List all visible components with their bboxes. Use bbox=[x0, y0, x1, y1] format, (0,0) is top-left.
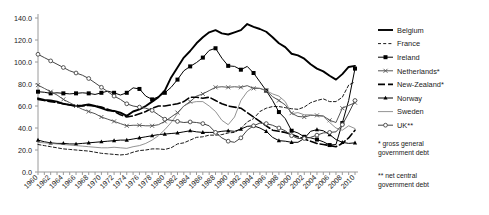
series-marker-uk bbox=[163, 117, 167, 121]
series-line-norway bbox=[38, 126, 355, 144]
series-marker-ireland bbox=[125, 91, 129, 95]
series-line-uk bbox=[38, 54, 355, 142]
x-tick-label: 2010 bbox=[339, 173, 357, 191]
series-marker-uk bbox=[125, 102, 129, 106]
series-marker-uk bbox=[277, 126, 281, 130]
series-marker-ireland bbox=[315, 138, 319, 142]
series-marker-uk bbox=[340, 123, 344, 127]
series-marker-ireland bbox=[290, 129, 294, 133]
series-line-belgium bbox=[38, 24, 355, 116]
series-marker-ireland bbox=[277, 110, 281, 114]
series-marker-ireland bbox=[74, 91, 78, 95]
footnote-net-central-cont: government debt bbox=[378, 181, 429, 189]
legend-marker-uk bbox=[384, 123, 388, 127]
series-marker-ireland bbox=[252, 71, 256, 75]
series-marker-uk bbox=[87, 77, 91, 81]
series-marker-ireland bbox=[163, 91, 167, 95]
chart-container: 0.020.040.060.080.0100.0120.0140.0196019… bbox=[0, 0, 489, 215]
footnote-gross-general: * gross general bbox=[378, 140, 424, 148]
series-marker-uk bbox=[353, 99, 357, 103]
series-marker-uk bbox=[201, 122, 205, 126]
footnote-gross-general-cont: government debt bbox=[378, 149, 429, 157]
series-marker-uk bbox=[214, 131, 218, 135]
series-marker-ireland bbox=[137, 87, 141, 91]
series-marker-netherlands bbox=[340, 106, 344, 110]
legend-label-sweden[interactable]: Sweden bbox=[397, 107, 424, 116]
y-tick-label: 100.0 bbox=[14, 58, 32, 67]
legend-label-uk[interactable]: UK** bbox=[397, 121, 413, 130]
series-marker-uk bbox=[188, 120, 192, 124]
series-marker-ireland bbox=[226, 64, 230, 68]
legend-label-ireland[interactable]: Ireland bbox=[397, 53, 420, 62]
y-tick-label: 20.0 bbox=[18, 146, 32, 155]
series-marker-ireland bbox=[214, 46, 218, 50]
series-marker-uk bbox=[315, 133, 319, 137]
y-tick-label: 60.0 bbox=[18, 102, 32, 111]
series-marker-uk bbox=[138, 105, 142, 109]
series-marker-uk bbox=[100, 85, 104, 89]
series-marker-ireland bbox=[175, 78, 179, 82]
series-marker-norway bbox=[315, 127, 319, 131]
series-marker-uk bbox=[328, 131, 332, 135]
series-marker-uk bbox=[264, 122, 268, 126]
series-marker-norway bbox=[188, 128, 192, 132]
series-marker-netherlands bbox=[61, 97, 65, 101]
series-marker-uk bbox=[74, 71, 78, 75]
series-marker-ireland bbox=[188, 64, 192, 68]
series-marker-uk bbox=[36, 52, 40, 56]
series-marker-uk bbox=[239, 136, 243, 140]
series-marker-ireland bbox=[150, 97, 154, 101]
legend-label-norway[interactable]: Norway bbox=[397, 94, 422, 103]
series-marker-uk bbox=[61, 66, 65, 70]
line-chart: 0.020.040.060.080.0100.0120.0140.0196019… bbox=[0, 0, 489, 215]
series-marker-ireland bbox=[99, 91, 103, 95]
footnote-net-central: ** net central bbox=[378, 172, 417, 179]
series-marker-ireland bbox=[353, 67, 357, 71]
legend-label-france[interactable]: France bbox=[397, 39, 420, 48]
series-marker-ireland bbox=[239, 68, 243, 72]
series-marker-uk bbox=[252, 124, 256, 128]
series-marker-ireland bbox=[201, 56, 205, 60]
series-marker-uk bbox=[176, 120, 180, 124]
series-marker-uk bbox=[112, 94, 116, 98]
series-marker-uk bbox=[302, 137, 306, 141]
series-marker-ireland bbox=[61, 91, 65, 95]
series-marker-norway bbox=[36, 138, 40, 142]
legend-label-netherlands[interactable]: Netherlands* bbox=[397, 67, 440, 76]
series-marker-netherlands bbox=[277, 99, 281, 103]
series-marker-uk bbox=[49, 59, 53, 63]
series-marker-uk bbox=[290, 134, 294, 138]
series-marker-ireland bbox=[87, 91, 91, 95]
series-marker-ireland bbox=[36, 90, 40, 94]
legend-marker-ireland bbox=[384, 55, 388, 59]
y-tick-label: 80.0 bbox=[18, 80, 32, 89]
legend-label-newzealand[interactable]: New-Zealand* bbox=[397, 80, 444, 89]
series-marker-uk bbox=[150, 109, 154, 113]
series-marker-uk bbox=[226, 139, 230, 143]
legend-label-belgium[interactable]: Belgium bbox=[397, 26, 424, 35]
y-tick-label: 40.0 bbox=[18, 124, 32, 133]
y-tick-label: 120.0 bbox=[14, 36, 32, 45]
y-tick-label: 140.0 bbox=[14, 14, 32, 23]
